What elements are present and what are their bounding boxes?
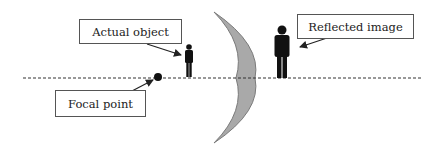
focal-point-dot: [154, 73, 162, 81]
focal-point-label: Focal point: [55, 90, 146, 117]
reflected-image-person-icon: [275, 26, 290, 79]
reflected-image-arrow: [300, 38, 327, 47]
actual-object-label: Actual object: [79, 19, 182, 44]
mirror-diagram: Actual object Reflected image Focal poin…: [0, 0, 443, 156]
actual-object-person-icon: [185, 44, 193, 77]
actual-object-arrow: [147, 44, 181, 55]
reflected-image-label: Reflected image: [297, 14, 414, 39]
